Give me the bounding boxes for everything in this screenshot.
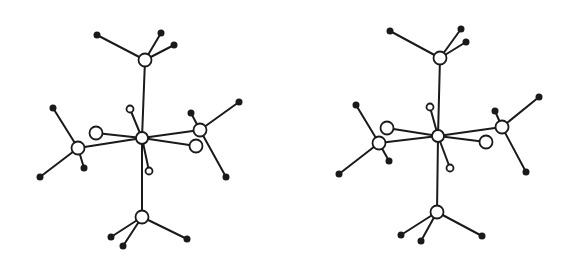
open-atom-icon [90,127,103,140]
filled-atom-icon [223,174,230,181]
open-atom-icon [194,124,207,137]
open-atom-icon [373,137,386,150]
bond-line [438,127,502,136]
filled-atom-icon [492,108,499,115]
molecule-drawing [0,0,572,268]
open-atom-icon [139,54,152,67]
filled-atom-icon [81,165,88,172]
bond-line [97,35,145,60]
open-atom-icon [432,130,444,142]
filled-atom-icon [386,158,393,165]
filled-atom-icon [120,243,127,250]
open-atom-icon [146,168,153,175]
filled-atom-icon [188,110,195,117]
open-atom-icon [427,104,434,111]
filled-atom-icon [184,236,191,243]
open-atom-icon [480,136,493,149]
bond-line [142,138,196,146]
open-atom-icon [127,106,134,113]
filled-atom-icon [236,99,243,106]
filled-atom-icon [418,238,425,245]
filled-atom-icon [523,169,530,176]
filled-atom-icon [336,171,343,178]
filled-atom-icon [387,28,394,35]
bond-line [437,136,438,212]
bond-line [142,130,200,138]
bond-line [200,130,226,177]
bond-line [78,138,142,148]
filled-atom-icon [458,26,465,33]
bond-line [339,143,379,174]
bond-line [390,31,440,58]
filled-atom-icon [536,94,543,101]
filled-atom-icon [463,39,470,46]
filled-atom-icon [37,174,44,181]
open-atom-icon [434,52,447,65]
filled-atom-icon [94,32,101,39]
stereo-view-right [336,26,543,245]
stereo-molecule-figure [0,0,572,268]
filled-atom-icon [108,234,115,241]
filled-atom-icon [50,105,57,112]
open-atom-icon [136,211,149,224]
open-atom-icon [381,122,394,135]
open-atom-icon [72,142,85,155]
bond-line [142,217,187,239]
open-atom-icon [496,121,509,134]
bond-line [142,60,145,138]
open-atom-icon [431,206,444,219]
bond-line [379,136,438,143]
bond-line [502,127,526,172]
filled-atom-icon [353,102,360,109]
open-atom-icon [447,165,454,172]
open-atom-icon [136,132,148,144]
bond-line [438,58,440,136]
open-atom-icon [190,140,203,153]
filled-atom-icon [171,42,178,49]
bond-line [437,212,482,236]
filled-atom-icon [158,30,165,37]
bond-line [387,128,438,136]
filled-atom-icon [398,232,405,239]
filled-atom-icon [479,233,486,240]
stereo-view-left [37,30,243,250]
